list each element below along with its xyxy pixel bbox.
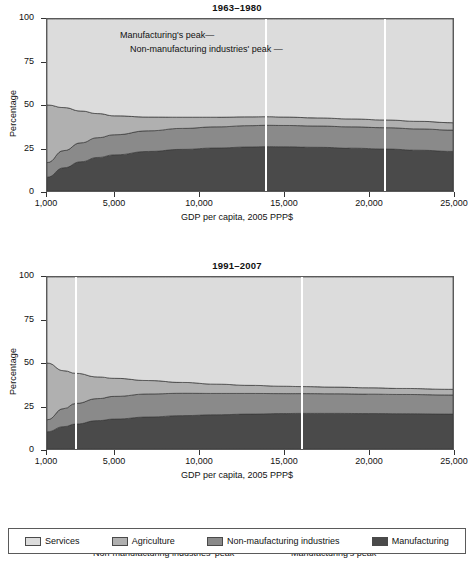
x-tick-mark — [199, 450, 200, 455]
x-tick-mark — [114, 192, 115, 197]
y-axis-title-top: Percentage — [8, 90, 18, 137]
x-tick-label: 15,000 — [254, 198, 314, 208]
y-tick-label: 25 — [6, 143, 34, 153]
x-tick-label: 5,000 — [84, 198, 144, 208]
annotation-manufacturing-peak-top: Manufacturing's peak— — [120, 30, 214, 41]
x-tick-label: 10,000 — [169, 198, 229, 208]
legend-item[interactable]: Non-maufacturing industries — [207, 536, 340, 546]
x-tick-label: 15,000 — [254, 456, 314, 466]
x-tick-mark — [46, 192, 47, 197]
y-tick-label: 0 — [6, 444, 34, 454]
legend-label: Agriculture — [132, 536, 175, 546]
y-tick-mark — [41, 407, 46, 408]
panel-1991-2007: 1991–2007 Percentage —Non-manufacturing … — [0, 258, 474, 508]
legend-label: Services — [45, 536, 80, 546]
y-tick-label: 100 — [6, 270, 34, 280]
y-tick-mark — [41, 363, 46, 364]
annotation-nonmanufacturing-peak-top: Non-manufacturing industries' peak — — [130, 44, 283, 55]
y-tick-label: 75 — [6, 56, 34, 66]
y-tick-label: 25 — [6, 401, 34, 411]
x-tick-mark — [46, 450, 47, 455]
legend-swatch-icon — [207, 537, 223, 546]
x-tick-label: 5,000 — [84, 456, 144, 466]
x-tick-label: 10,000 — [169, 456, 229, 466]
y-tick-mark — [41, 276, 46, 277]
panel-title-top: 1963–1980 — [0, 2, 474, 13]
x-tick-mark — [369, 450, 370, 455]
x-tick-mark — [114, 450, 115, 455]
legend-item[interactable]: Agriculture — [112, 536, 175, 546]
legend-label: Non-maufacturing industries — [227, 536, 340, 546]
y-axis-title-bottom: Percentage — [8, 348, 18, 395]
y-tick-label: 50 — [6, 357, 34, 367]
y-tick-mark — [41, 149, 46, 150]
y-tick-label: 0 — [6, 186, 34, 196]
legend: ServicesAgricultureNon-maufacturing indu… — [8, 528, 466, 554]
peak-marker-manufacturing-bottom — [301, 277, 303, 449]
y-tick-label: 75 — [6, 314, 34, 324]
panel-1963-1980: 1963–1980 Percentage Manufacturing's pea… — [0, 0, 474, 246]
legend-swatch-icon — [112, 537, 128, 546]
legend-label: Manufacturing — [392, 536, 449, 546]
peak-marker-nonmanufacturing-top — [384, 19, 386, 191]
legend-item[interactable]: Manufacturing — [372, 536, 449, 546]
x-tick-mark — [284, 192, 285, 197]
x-tick-label: 1,000 — [16, 456, 76, 466]
x-axis-title-top: GDP per capita, 2005 PPP$ — [0, 212, 474, 222]
legend-swatch-icon — [25, 537, 41, 546]
y-tick-mark — [41, 105, 46, 106]
x-tick-label: 20,000 — [339, 456, 399, 466]
x-tick-mark — [454, 450, 455, 455]
area-series-bottom — [47, 277, 453, 449]
x-tick-label: 25,000 — [424, 198, 474, 208]
peak-marker-nonmanufacturing-bottom — [75, 277, 77, 449]
y-tick-mark — [41, 62, 46, 63]
x-tick-label: 1,000 — [16, 198, 76, 208]
x-tick-label: 20,000 — [339, 198, 399, 208]
panel-title-bottom: 1991–2007 — [0, 260, 474, 271]
area-services — [47, 277, 453, 389]
legend-swatch-icon — [372, 537, 388, 546]
y-tick-mark — [41, 18, 46, 19]
x-tick-label: 25,000 — [424, 456, 474, 466]
x-tick-mark — [199, 192, 200, 197]
area-services — [47, 19, 453, 123]
y-tick-label: 100 — [6, 12, 34, 22]
x-axis-title-bottom: GDP per capita, 2005 PPP$ — [0, 470, 474, 480]
y-tick-mark — [41, 320, 46, 321]
stacked-area-chart-figure: 1963–1980 Percentage Manufacturing's pea… — [0, 0, 474, 568]
legend-item[interactable]: Services — [25, 536, 80, 546]
plot-area-bottom — [46, 276, 454, 450]
x-tick-mark — [284, 450, 285, 455]
y-tick-label: 50 — [6, 99, 34, 109]
x-tick-mark — [454, 192, 455, 197]
x-tick-mark — [369, 192, 370, 197]
